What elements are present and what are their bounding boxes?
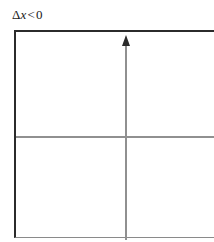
comparison-value: 0: [36, 7, 43, 22]
y-axis-line: [125, 44, 127, 240]
plot-frame: [14, 30, 214, 238]
figure-root: Δx<0: [0, 0, 214, 242]
condition-label: Δx<0: [12, 6, 43, 23]
variable-symbol: x: [21, 7, 27, 22]
delta-symbol: Δ: [12, 7, 21, 22]
y-axis-arrow-icon: [122, 35, 130, 46]
relation-symbol: <: [27, 7, 37, 22]
x-axis-line: [16, 136, 214, 138]
